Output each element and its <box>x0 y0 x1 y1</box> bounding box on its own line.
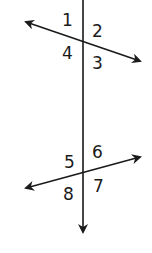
transversal-diagram: 1 2 4 3 5 6 8 7 <box>0 0 152 253</box>
angle-label-5: 5 <box>64 154 75 171</box>
angle-label-6: 6 <box>92 144 103 161</box>
angle-label-2: 2 <box>92 23 103 40</box>
angle-label-3: 3 <box>92 55 103 72</box>
angle-label-7: 7 <box>93 178 104 195</box>
angle-label-8: 8 <box>63 186 74 203</box>
angle-label-1: 1 <box>62 12 73 29</box>
diagram-lines <box>0 0 152 253</box>
angle-label-4: 4 <box>62 45 73 62</box>
